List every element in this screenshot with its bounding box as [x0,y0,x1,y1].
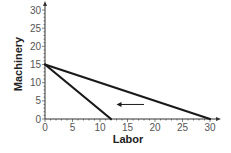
x-tick-label: 15 [122,122,134,133]
data-series [45,65,210,120]
y-axis-arrow-icon [43,1,47,6]
x-tick-label: 5 [70,122,76,133]
x-tick-label: 10 [94,122,106,133]
y-tick-label: 30 [30,5,42,16]
series-line [45,65,111,120]
series-line [45,65,210,120]
y-tick-label: 25 [30,23,42,34]
tick-marks [42,10,210,122]
x-tick-label: 0 [42,122,48,133]
annotations [117,102,145,107]
y-tick-label: 20 [30,41,42,52]
y-tick-label: 10 [30,77,42,88]
y-tick-label: 0 [35,114,41,125]
axes [43,1,221,121]
x-tick-label: 20 [149,122,161,133]
x-axis-arrow-icon [216,117,221,121]
y-tick-label: 5 [35,95,41,106]
x-axis-label: Labor [113,133,144,145]
chart: 051015202530051015202530 Labor Machinery [0,0,231,153]
y-axis-label: Machinery [12,36,24,91]
x-tick-label: 30 [204,122,216,133]
arrow-left-icon [117,102,122,107]
y-tick-label: 15 [30,59,42,70]
x-tick-label: 25 [177,122,189,133]
